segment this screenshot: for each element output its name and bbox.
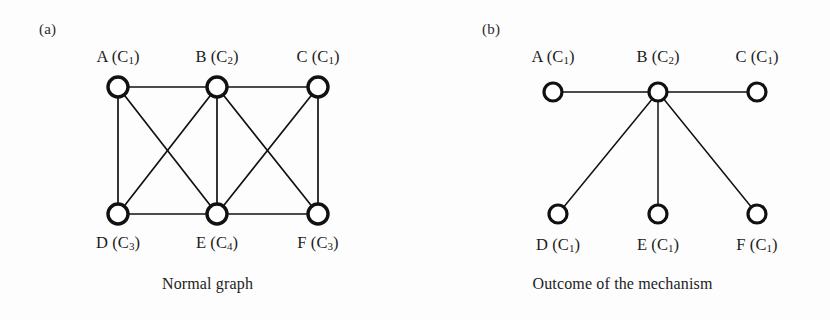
node-label-subscript: 1 — [128, 54, 134, 66]
node-A[interactable] — [544, 83, 562, 101]
node-label-subscript: 1 — [569, 242, 575, 254]
node-group — [108, 77, 328, 224]
figure-canvas: (a) A (C1)B (C2)C (C1)D (C3)E (C4)F (C3)… — [0, 0, 830, 320]
node-label-subscript: 3 — [129, 240, 135, 252]
node-label-A: A (C1) — [96, 47, 139, 67]
node-B[interactable] — [649, 83, 667, 101]
panel-b-caption: Outcome of the mechanism — [415, 275, 830, 293]
edge-B-D — [564, 99, 652, 206]
node-D[interactable] — [108, 204, 128, 224]
node-group — [544, 83, 766, 223]
node-label-E: E (C4) — [196, 233, 238, 253]
node-label-subscript: 2 — [227, 54, 233, 66]
node-label-subscript: 1 — [668, 242, 674, 254]
node-label-D: D (C1) — [536, 235, 580, 255]
node-label-C: C (C1) — [296, 47, 339, 67]
node-E[interactable] — [649, 205, 667, 223]
node-label-F: F (C1) — [736, 235, 777, 255]
node-label-subscript: 1 — [767, 54, 773, 66]
node-F[interactable] — [748, 205, 766, 223]
node-F[interactable] — [308, 204, 328, 224]
node-label-subscript: 2 — [668, 54, 674, 66]
node-label-A: A (C1) — [531, 47, 574, 67]
node-A[interactable] — [108, 77, 128, 97]
node-label-B: B (C2) — [195, 47, 238, 67]
node-label-D: D (C3) — [96, 233, 140, 253]
edge-group — [118, 87, 318, 214]
node-label-subscript: 3 — [328, 240, 334, 252]
node-label-C: C (C1) — [735, 47, 778, 67]
node-C[interactable] — [748, 83, 766, 101]
node-label-subscript: 1 — [328, 54, 334, 66]
panel-a: (a) A (C1)B (C2)C (C1)D (C3)E (C4)F (C3)… — [0, 0, 415, 320]
panel-a-caption: Normal graph — [0, 275, 415, 293]
node-E[interactable] — [207, 204, 227, 224]
node-label-subscript: 1 — [767, 242, 773, 254]
edge-B-F — [664, 99, 751, 206]
node-label-subscript: 1 — [563, 54, 569, 66]
node-label-B: B (C2) — [636, 47, 679, 67]
node-D[interactable] — [549, 205, 567, 223]
node-C[interactable] — [308, 77, 328, 97]
node-label-subscript: 4 — [227, 240, 233, 252]
node-label-F: F (C3) — [297, 233, 338, 253]
panel-b: (b) A (C1)B (C2)C (C1)D (C1)E (C1)F (C1)… — [415, 0, 830, 320]
node-B[interactable] — [207, 77, 227, 97]
edge-group — [562, 92, 751, 207]
node-label-E: E (C1) — [637, 235, 679, 255]
